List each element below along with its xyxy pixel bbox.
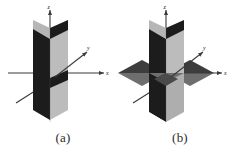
panel-a-caption: (a) — [43, 130, 83, 146]
panel-a-y-label: y — [86, 45, 90, 51]
panel-a-z-label: z — [47, 4, 51, 10]
figure-canvas: z x y — [0, 0, 243, 159]
panel-b-x-label: x — [223, 70, 227, 76]
panel-a-group: z x y — [8, 4, 109, 124]
panel-b-z-label: z — [163, 4, 167, 10]
panel-b-caption: (b) — [160, 130, 200, 146]
panel-a-dark-plane-body — [33, 29, 50, 122]
panel-b-group: z x y — [118, 4, 227, 124]
figure-container: z x y — [0, 0, 243, 159]
panel-a-x-label: x — [105, 70, 109, 76]
panel-b-y-label: y — [202, 45, 206, 51]
